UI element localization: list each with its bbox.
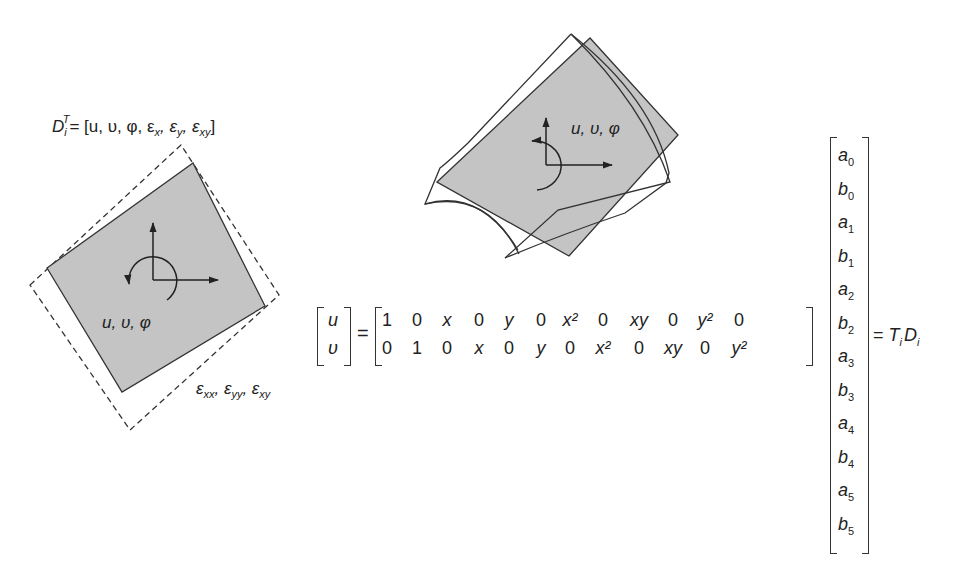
matrix-cell: x [432,311,462,329]
coeff-bracket-right [862,137,869,554]
lhs-bracket-right [344,307,351,366]
dof-vector-label: DiT= [u, υ, φ, εx, εy, εxy] [52,114,215,138]
matrix-cell: x² [588,339,618,357]
matrix-cell: xy [658,339,688,357]
matrix-cell: x² [555,311,585,329]
matrix-cell: y² [690,311,720,329]
matrix-cell: y [526,339,556,357]
diagram-canvas [0,0,964,566]
lhs-v: υ [328,339,338,357]
rhs-label: = TiDi [873,326,919,348]
matrix-cell: 0 [402,311,432,329]
coeff-bracket-left [830,137,837,554]
equals-sign: = [357,323,369,343]
matrix-cell: 0 [464,311,494,329]
matrix-cell: 0 [494,339,524,357]
matrix-cell: 0 [624,339,654,357]
matrix-cell: 0 [588,311,618,329]
matrix-cell: y² [724,339,754,357]
coefficient-vector: a0b0a1b1a2b2a3b3a4b4a5b5 [838,146,878,546]
matrix-cell: 0 [372,339,402,357]
middle-rigid-body-label: u, υ, φ [571,120,620,137]
matrix-cell: y [494,311,524,329]
strain-label: εxx, εyy, εxy [196,380,270,400]
middle-element-shape [437,38,678,256]
matrix-cell: 1 [372,311,402,329]
lhs-u: u [328,311,338,329]
shape-matrix: 10x0y0x²0xy0y²0 010x0y0x²0xy0y² [380,311,820,361]
matrix-bracket-right [806,307,813,366]
left-rigid-body-label: u, υ, φ [102,314,151,331]
matrix-cell: xy [624,311,654,329]
matrix-cell: 0 [555,339,585,357]
matrix-cell: 0 [526,311,556,329]
matrix-cell: 0 [724,311,754,329]
matrix-cell: 0 [690,339,720,357]
lhs-bracket-left [317,307,324,366]
matrix-cell: 0 [432,339,462,357]
matrix-cell: 1 [402,339,432,357]
matrix-cell: x [464,339,494,357]
matrix-cell: 0 [658,311,688,329]
